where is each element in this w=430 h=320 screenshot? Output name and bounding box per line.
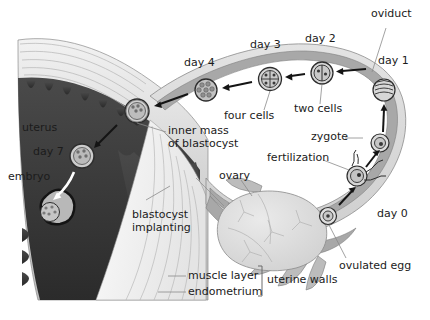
label-day1: day 1	[378, 55, 409, 68]
label-day7: day 7	[33, 146, 64, 159]
two-cells-embryo	[311, 62, 333, 84]
label-day3: day 3	[250, 39, 281, 52]
label-embryo: embryo	[8, 171, 50, 184]
ovary-shape	[217, 191, 326, 271]
label-uterus: uterus	[22, 122, 57, 135]
morula-embryo-day4	[195, 79, 217, 101]
blastocyst-inner-mass	[125, 99, 149, 123]
label-day4: day 4	[184, 57, 215, 70]
label-day2: day 2	[305, 33, 336, 46]
label-ovary: ovary	[219, 170, 250, 183]
label-oviduct: oviduct	[371, 8, 412, 21]
zygote-cell	[371, 134, 389, 152]
label-day0: day 0	[377, 208, 408, 221]
label-inner-mass-of-blastocyst: inner mass of blastocyst	[168, 125, 238, 150]
label-endometrium: endometrium	[188, 286, 263, 299]
label-ovulated-egg: ovulated egg	[339, 260, 411, 273]
label-two-cells: two cells	[294, 103, 342, 116]
figure-canvas: oviduct day 1 day 2 day 3 day 4 two cell…	[0, 0, 430, 320]
label-zygote: zygote	[311, 131, 348, 144]
ovulated-egg-cell	[320, 208, 337, 225]
four-cells-embryo	[259, 68, 282, 91]
label-four-cells: four cells	[224, 110, 274, 123]
label-muscle-layer: muscle layer	[188, 270, 258, 283]
label-fertilization: fertilization	[267, 152, 329, 165]
dividing-cell-day1	[373, 79, 395, 101]
label-uterine-walls: uterine walls	[267, 274, 337, 287]
label-blastocyst-implanting: blastocyst implanting	[132, 209, 191, 234]
blastocyst-day7	[70, 144, 94, 168]
